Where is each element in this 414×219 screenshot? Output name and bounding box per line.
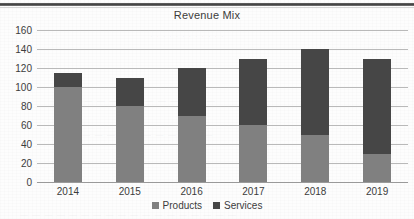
- chart-title: Revenue Mix: [0, 9, 414, 21]
- bar-segment-services-2016[interactable]: [178, 68, 206, 116]
- y-axis-label-120: 120: [15, 63, 32, 74]
- bar-segment-services-2017[interactable]: [239, 59, 267, 126]
- y-axis-label-140: 140: [15, 44, 32, 55]
- gridline-40: 40: [37, 144, 408, 145]
- bar-group-2014[interactable]: 2014: [54, 30, 82, 182]
- x-axis-label-2015: 2015: [116, 186, 144, 197]
- page-top-rule-shadow: [0, 7, 414, 8]
- stacked-bar-2019[interactable]: [363, 59, 391, 183]
- y-axis-label-100: 100: [15, 82, 32, 93]
- bar-segment-services-2014[interactable]: [54, 73, 82, 87]
- bar-segment-services-2018[interactable]: [301, 49, 329, 135]
- bar-segment-products-2019[interactable]: [363, 154, 391, 183]
- legend-label-products: Products: [163, 200, 202, 211]
- bar-segment-products-2016[interactable]: [178, 116, 206, 183]
- page-top-rule: [0, 3, 414, 6]
- gridline-60: 60: [37, 125, 408, 126]
- bar-segment-services-2019[interactable]: [363, 59, 391, 154]
- x-axis-label-2018: 2018: [301, 186, 329, 197]
- legend-item-products[interactable]: Products: [152, 200, 202, 211]
- x-axis-label-2017: 2017: [239, 186, 267, 197]
- bar-segment-products-2015[interactable]: [116, 106, 144, 182]
- legend-label-services: Services: [224, 200, 262, 211]
- y-axis-label-160: 160: [15, 25, 32, 36]
- bar-group-2019[interactable]: 2019: [363, 30, 391, 182]
- stacked-bar-2017[interactable]: [239, 59, 267, 183]
- y-axis-label-60: 60: [21, 120, 32, 131]
- x-axis-label-2019: 2019: [363, 186, 391, 197]
- bar-segment-products-2018[interactable]: [301, 135, 329, 183]
- gridline-20: 20: [37, 163, 408, 164]
- y-axis-label-20: 20: [21, 158, 32, 169]
- gridline-140: 140: [37, 49, 408, 50]
- services-swatch-icon: [213, 202, 220, 209]
- legend-item-services[interactable]: Services: [213, 200, 262, 211]
- bar-segment-services-2015[interactable]: [116, 78, 144, 107]
- bar-group-2015[interactable]: 2015: [116, 30, 144, 182]
- products-swatch-icon: [152, 202, 159, 209]
- x-axis-label-2014: 2014: [54, 186, 82, 197]
- gridline-120: 120: [37, 68, 408, 69]
- x-axis-label-2016: 2016: [178, 186, 206, 197]
- stacked-bar-2014[interactable]: [54, 73, 82, 182]
- stacked-bar-2018[interactable]: [301, 49, 329, 182]
- gridline-160: 160: [37, 30, 408, 31]
- bar-segment-products-2014[interactable]: [54, 87, 82, 182]
- y-axis-label-80: 80: [21, 101, 32, 112]
- stacked-bar-2015[interactable]: [116, 78, 144, 183]
- gridline-0-baseline: 0: [37, 182, 408, 183]
- bar-group-2017[interactable]: 2017: [239, 30, 267, 182]
- y-axis-label-0: 0: [26, 177, 32, 188]
- bar-segment-products-2017[interactable]: [239, 125, 267, 182]
- bar-group-2018[interactable]: 2018: [301, 30, 329, 182]
- stacked-bar-2016[interactable]: [178, 68, 206, 182]
- bar-group-2016[interactable]: 2016: [178, 30, 206, 182]
- chart-plot-area: 160 140 120 100 80 60 40 20 0 2014201520…: [37, 30, 408, 182]
- gridline-80: 80: [37, 106, 408, 107]
- chart-legend: Products Services: [0, 200, 414, 211]
- y-axis-label-40: 40: [21, 139, 32, 150]
- gridline-100: 100: [37, 87, 408, 88]
